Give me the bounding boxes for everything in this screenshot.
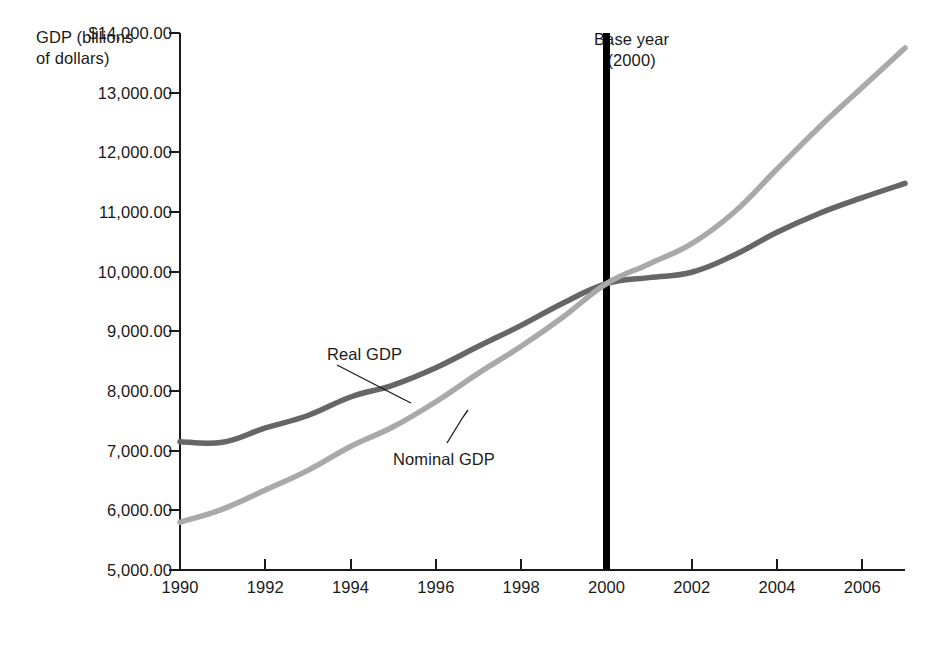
gdp-line-chart: GDP (billions of dollars) $14,000.0013,0… bbox=[0, 0, 935, 653]
series-line-real-gdp bbox=[180, 183, 905, 443]
y-axis-tick-marks bbox=[169, 33, 180, 570]
x-axis-tick-marks bbox=[265, 559, 862, 570]
nominal-gdp-leader-line bbox=[447, 410, 468, 443]
plot-area bbox=[0, 0, 935, 653]
series-lines bbox=[180, 48, 905, 522]
series-line-nominal-gdp bbox=[180, 48, 905, 522]
